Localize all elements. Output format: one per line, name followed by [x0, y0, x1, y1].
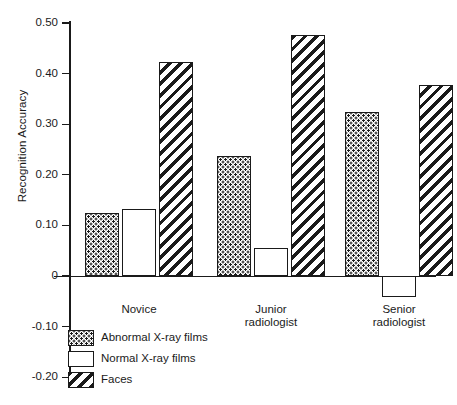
bar-novice-normal-x-ray-films	[122, 209, 156, 276]
bar-novice-abnormal-x-ray-films	[85, 213, 119, 276]
legend-item: Abnormal X-ray films	[68, 327, 208, 348]
group-label-novice: Novice	[63, 303, 215, 316]
y-axis-tick-label: 0.10	[0, 219, 58, 231]
bar-senior-radiologist-abnormal-x-ray-films	[345, 112, 379, 276]
legend-label: Abnormal X-ray films	[101, 332, 208, 344]
legend-swatch-dots	[68, 330, 94, 346]
y-axis-tick	[62, 124, 70, 125]
y-axis-tick-label: 0	[0, 270, 58, 282]
y-axis-tick-label: -0.10	[0, 321, 58, 333]
y-axis-tick-label: 0.50	[0, 17, 58, 29]
y-axis-tick	[62, 174, 70, 175]
y-axis-tick-label: -0.20	[0, 371, 58, 383]
y-axis-tick	[62, 225, 70, 226]
legend-label: Faces	[101, 374, 132, 386]
legend-swatch-hatch	[68, 372, 94, 388]
legend: Abnormal X-ray filmsNormal X-ray filmsFa…	[68, 327, 208, 390]
legend-swatch-white	[68, 351, 94, 367]
group-label-senior-radiologist: Senior radiologist	[323, 303, 457, 329]
bar-junior-radiologist-abnormal-x-ray-films	[217, 156, 251, 276]
y-axis-tick	[62, 22, 70, 23]
bar-novice-faces	[159, 62, 193, 276]
legend-item: Faces	[68, 369, 208, 390]
legend-item: Normal X-ray films	[68, 348, 208, 369]
y-axis-tick-label: 0.30	[0, 118, 58, 130]
legend-label: Normal X-ray films	[101, 353, 196, 365]
bar-senior-radiologist-normal-x-ray-films	[382, 276, 416, 297]
zero-baseline	[54, 276, 436, 277]
bar-junior-radiologist-normal-x-ray-films	[254, 248, 288, 276]
y-axis-tick-label: 0.40	[0, 68, 58, 80]
bar-senior-radiologist-faces	[419, 85, 453, 276]
bar-junior-radiologist-faces	[291, 35, 325, 276]
y-axis-tick-label: 0.20	[0, 169, 58, 181]
y-axis-tick	[62, 73, 70, 74]
